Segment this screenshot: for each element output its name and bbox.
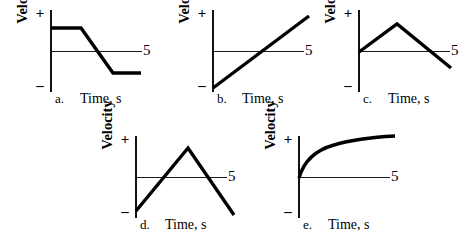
curve-path — [359, 24, 451, 68]
x-axis-label: Time, s — [165, 218, 207, 232]
graph-panel-e: Velocity + – 5 e. Time, s — [258, 128, 408, 238]
panel-letter: b. — [217, 92, 227, 106]
graph-panel-b: Velocity + – 5 b. Time, s — [172, 2, 322, 112]
panel-letter: d. — [140, 218, 150, 232]
graph-panel-c: Velocity + – 5 c. Time, s — [318, 2, 468, 112]
x-axis-label: Time, s — [328, 218, 370, 232]
panel-letter: c. — [363, 92, 372, 106]
velocity-time-graph-figure: Velocity + – 5 a. Time, s Velocity + – 5… — [0, 0, 471, 245]
curve-path — [213, 16, 309, 88]
panel-letter: e. — [303, 218, 312, 232]
curve-path — [51, 28, 141, 73]
curve-path — [299, 136, 395, 178]
panel-letter: a. — [55, 92, 64, 106]
graph-panel-d: Velocity + – 5 d. Time, s — [95, 128, 245, 238]
curve-path — [136, 148, 234, 215]
graph-panel-a: Velocity + – 5 a. Time, s — [10, 2, 160, 112]
x-axis-label: Time, s — [388, 92, 430, 106]
